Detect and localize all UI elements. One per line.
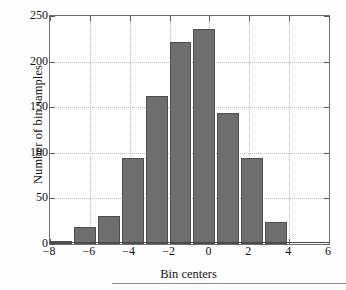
x-tick-label: 4 bbox=[268, 245, 308, 257]
x-tick-label: −2 bbox=[149, 245, 189, 257]
page-rule-artifact bbox=[112, 283, 346, 284]
x-tick-label: 6 bbox=[308, 245, 346, 257]
x-axis-label: Bin centers bbox=[49, 267, 328, 282]
x-tick-label: −8 bbox=[29, 245, 69, 257]
x-tick-label: 2 bbox=[228, 245, 268, 257]
x-tick-label: 0 bbox=[188, 245, 228, 257]
x-tick-label: −6 bbox=[69, 245, 109, 257]
histogram-figure: Number of bin samples 050100150200250 −8… bbox=[0, 0, 346, 290]
x-tick-label: −4 bbox=[109, 245, 149, 257]
x-axis-tick-labels: −8−6−4−20246 bbox=[0, 0, 346, 290]
